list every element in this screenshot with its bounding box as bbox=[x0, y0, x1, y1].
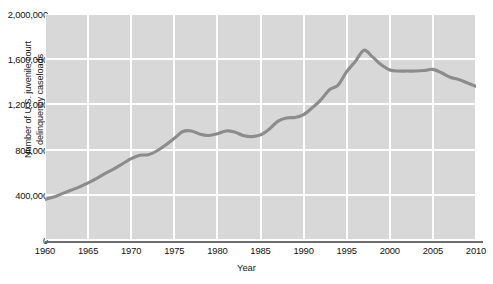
chart-figure: Number of U.S. juvenile court delinquenc… bbox=[0, 0, 493, 284]
y-tick-label: 0 bbox=[0, 235, 48, 246]
y-tick-label: 800,000 bbox=[0, 144, 48, 155]
y-tick-label: 2,000,000 bbox=[0, 9, 48, 20]
y-tick-label: 1,200,000 bbox=[0, 99, 48, 110]
x-axis-line bbox=[45, 241, 483, 243]
x-tick-label: 2010 bbox=[446, 245, 493, 256]
x-axis-title: Year bbox=[0, 262, 493, 273]
line-series-caseloads bbox=[45, 14, 476, 240]
y-tick-label: 1,600,000 bbox=[0, 54, 48, 65]
y-tick-label: 400,000 bbox=[0, 189, 48, 200]
line-series-path bbox=[45, 50, 476, 199]
plot-area bbox=[45, 14, 476, 240]
